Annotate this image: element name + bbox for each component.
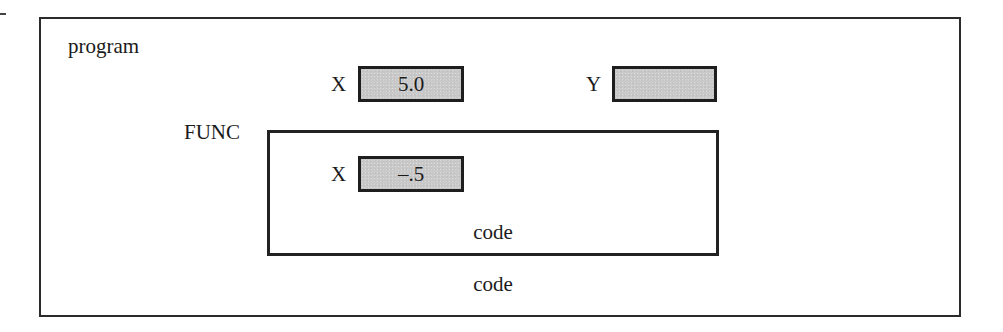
func-variable-x-label: X <box>331 162 346 186</box>
program-variable-y-label: Y <box>586 72 601 96</box>
margin-tick-mark <box>0 13 6 15</box>
func-scope-label: FUNC <box>184 120 240 144</box>
program-variable-y-value-box <box>612 66 717 102</box>
func-variable-x-value-box: –.5 <box>358 156 464 192</box>
program-variable-x-value-box: 5.0 <box>358 66 464 102</box>
program-code-label: code <box>433 272 553 296</box>
program-variable-x-label: X <box>331 72 346 96</box>
func-code-label: code <box>433 220 553 244</box>
program-scope-label: program <box>68 34 139 58</box>
